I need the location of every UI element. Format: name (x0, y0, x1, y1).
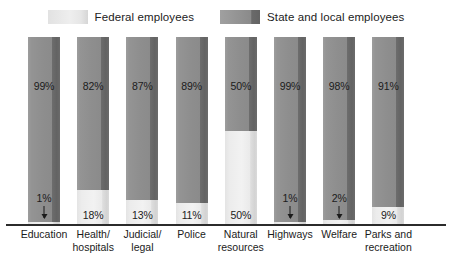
bar-value-label-federal: 50% (225, 209, 257, 221)
bar-column: 98%2% (323, 37, 355, 224)
bar-value-label-state-local: 82% (77, 80, 109, 92)
chart-legend: Federal employees State and local employ… (0, 10, 452, 24)
bar-value-label-state-local: 50% (225, 80, 257, 92)
legend-swatch-state-local-icon (220, 10, 260, 24)
stacked-bar-chart: Federal employees State and local employ… (0, 0, 452, 262)
bar-column: 82%18% (77, 37, 109, 224)
bar-value-label-federal: 2% (323, 192, 355, 204)
callout-arrow-down-icon (339, 206, 340, 218)
bar-value-label-state-local: 89% (176, 80, 208, 92)
bar-value-label-state-local: 99% (28, 80, 60, 92)
bar-value-label-state-local: 99% (274, 80, 306, 92)
bar-value-label-federal: 1% (274, 192, 306, 204)
legend-label-state-local: State and local employees (267, 11, 404, 23)
bar-value-label-federal: 18% (77, 209, 109, 221)
bar-column: 87%13% (126, 37, 158, 224)
bar-segment-state-local: 89% (176, 37, 208, 203)
bar-column: 99%1% (274, 37, 306, 224)
callout-arrow-down-icon (290, 206, 291, 218)
legend-item-federal: Federal employees (48, 10, 195, 24)
bar-value-label-federal: 1% (28, 192, 60, 204)
callout-arrow-down-icon (44, 206, 45, 218)
bar-column: 50%50% (225, 37, 257, 224)
bar-segment-state-local: 50% (225, 37, 257, 131)
x-axis-category-labels: EducationHealth/hospitalsJudicial/legalP… (0, 228, 452, 262)
bar-value-label-state-local: 87% (126, 80, 158, 92)
legend-label-federal: Federal employees (95, 11, 195, 23)
legend-item-state-local: State and local employees (220, 10, 404, 24)
plot-area: 99%1%82%18%87%13%89%11%50%50%99%1%98%2%9… (0, 37, 452, 224)
bar-segment-state-local: 82% (77, 37, 109, 190)
bar-column: 99%1% (28, 37, 60, 224)
bar-column: 89%11% (176, 37, 208, 224)
bar-value-label-state-local: 98% (323, 80, 355, 92)
bar-value-label-federal: 11% (176, 209, 208, 221)
bar-column: 91%9% (372, 37, 404, 224)
bar-value-label-federal: 9% (372, 209, 404, 221)
bar-segment-state-local: 91% (372, 37, 404, 207)
x-axis-tick-label: Parks andrecreation (357, 228, 419, 253)
x-axis-line (6, 224, 446, 226)
bar-value-label-federal: 13% (126, 209, 158, 221)
bar-value-label-state-local: 91% (372, 80, 404, 92)
legend-swatch-federal-icon (48, 10, 88, 24)
bar-segment-state-local: 87% (126, 37, 158, 200)
